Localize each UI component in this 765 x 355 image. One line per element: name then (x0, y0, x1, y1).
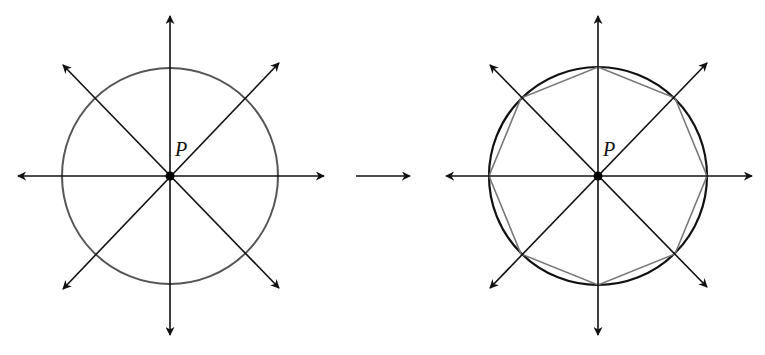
center-point-p (166, 172, 175, 181)
center-point-p (594, 172, 603, 181)
diagram-canvas: P P (0, 0, 765, 355)
right-figure: P (446, 16, 752, 335)
point-label-p: P (602, 138, 615, 160)
left-figure: P (18, 16, 324, 335)
point-label-p: P (174, 138, 187, 160)
